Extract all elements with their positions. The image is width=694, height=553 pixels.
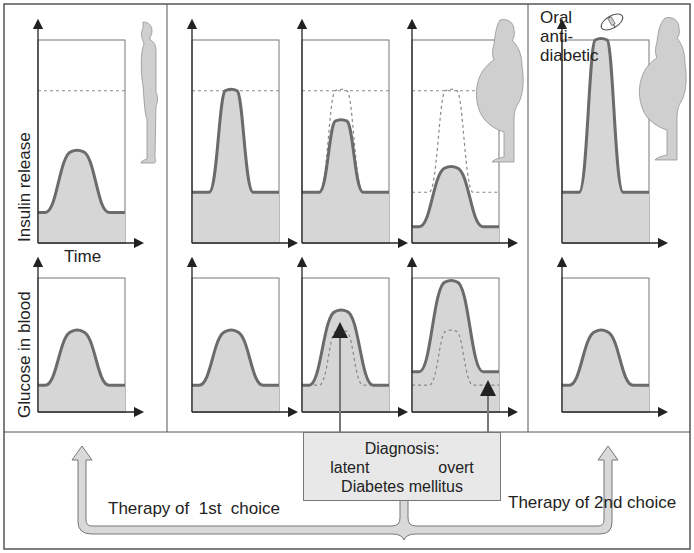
person-obese-icon <box>476 19 523 162</box>
chart-panels <box>38 24 663 412</box>
y-axis-label-insulin: Insulin release <box>16 132 33 242</box>
chart-panel <box>302 262 403 412</box>
y-axis-label-glucose: Glucose in blood <box>16 291 33 418</box>
chart-panel <box>562 262 663 412</box>
chart-panel <box>302 24 403 243</box>
pill-icon <box>599 11 626 33</box>
diagnosis-box: Diagnosis: latent overt Diabetes mellitu… <box>303 432 501 501</box>
chart-panel <box>192 262 293 412</box>
diagnosis-stages: latent overt <box>304 460 500 476</box>
diagnosis-latent: latent <box>330 459 369 476</box>
diagnosis-title: Diagnosis: <box>304 441 500 457</box>
chart-panel <box>38 262 139 412</box>
chart-panel <box>38 24 139 243</box>
therapy-2nd-choice-label: Therapy of 2nd choice <box>508 494 676 511</box>
x-axis-label-time: Time <box>64 248 101 265</box>
diagnosis-overt: overt <box>438 459 474 476</box>
person-obese-2-icon <box>639 17 686 160</box>
chart-panel <box>412 262 513 412</box>
chart-panel <box>192 24 293 243</box>
therapy-1st-choice-label: Therapy of 1st choice <box>108 500 280 517</box>
person-normal-icon <box>141 22 158 163</box>
diagnosis-disease: Diabetes mellitus <box>304 479 500 495</box>
oral-antidiabetic-label: Oral anti- diabetic <box>540 8 599 65</box>
